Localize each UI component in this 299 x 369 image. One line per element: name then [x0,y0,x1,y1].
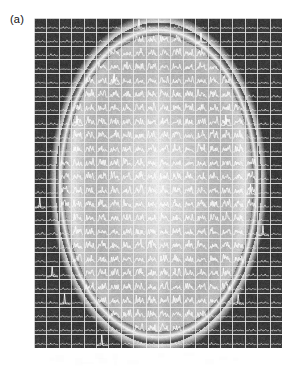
panel-label: (a) [10,13,24,26]
figure-root: (a) [0,0,299,369]
mrsi-grid-overlay [34,18,282,348]
footer-faint-marks [34,350,282,367]
footer-marks-canvas [34,350,282,367]
mrsi-image [34,18,282,348]
